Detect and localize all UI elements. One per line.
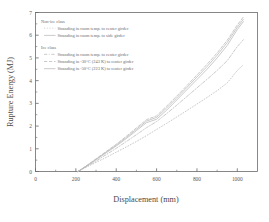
x-tick-label: 0 [34,176,37,182]
y-axis-label: Rupture Energy (MJ) [6,57,15,127]
y-axis-ticks: 01234567 [29,10,38,175]
series-line-iceclass_m30_center [78,17,243,171]
legend-label-noniceclass_room_center: Stranding in room temp. to center girder [58,26,129,31]
y-tick-label: 1 [29,146,32,152]
x-tick-label: 1000 [232,176,243,182]
legend-group-heading: Ice class [41,45,56,50]
y-tick-label: 4 [29,78,32,84]
y-tick-label: 7 [29,10,32,16]
y-tick-label: 0 [29,169,32,175]
x-tick-label: 600 [153,176,161,182]
chart-figure: 02004006008001000 01234567 Displacement … [0,0,269,222]
x-axis-ticks: 02004006008001000 [34,168,243,182]
legend-label-iceclass_m50_center: Stranding in -50°C (223 K) to center gir… [58,66,135,71]
y-tick-label: 5 [29,55,32,61]
x-tick-label: 200 [72,176,80,182]
x-tick-label: 400 [112,176,120,182]
series-line-iceclass_m50_center [78,19,243,171]
series-line-noniceclass_room_side [78,22,243,172]
rupture-energy-line-chart: 02004006008001000 01234567 Displacement … [0,0,269,222]
legend-label-iceclass_m30_center: Stranding in -30°C (243 K) to center gir… [58,59,135,64]
legend-label-iceclass_room_center: Stranding in room temp. to center girder [58,52,129,57]
x-tick-label: 800 [193,176,201,182]
y-tick-label: 6 [29,32,32,38]
y-tick-label: 2 [29,123,32,129]
legend-group-heading: Non-ice class [41,19,65,24]
chart-legend: Non-ice classStranding in room temp. to … [41,19,134,72]
x-axis-label: Displacement (mm) [113,195,179,204]
legend-label-noniceclass_room_side: Stranding in room temp. to side girder [58,33,126,38]
y-tick-label: 3 [29,100,32,106]
data-curves [78,17,243,171]
